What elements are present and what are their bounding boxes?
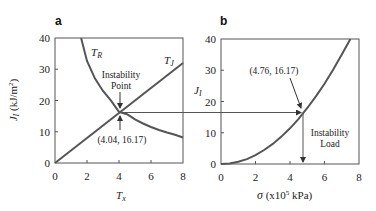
svg-text:30: 30 <box>39 63 51 75</box>
svg-text:4: 4 <box>287 171 293 183</box>
annotation-instability-point-2: Point <box>111 81 131 91</box>
ticks-a <box>55 69 151 163</box>
annotation-instability-load-1: Instability <box>311 128 350 138</box>
svg-text:20: 20 <box>39 95 51 107</box>
svg-text:40: 40 <box>205 33 217 45</box>
svg-text:6: 6 <box>322 171 328 183</box>
annotation-point-a: (4.04, 16.17) <box>97 135 146 146</box>
svg-text:6: 6 <box>148 170 154 182</box>
y-tick-labels-a: 0 10 20 30 40 <box>39 32 51 169</box>
x-tick-labels-a: 0 2 4 6 8 <box>52 170 186 182</box>
figure: a b 0 10 20 30 40 0 2 4 6 8 JI <box>0 0 376 211</box>
svg-text:0: 0 <box>211 158 217 170</box>
annotation-instability-load-2: Load <box>320 139 340 149</box>
svg-text:2: 2 <box>84 170 90 182</box>
y-axis-label-a: JI (kJ/m2) <box>7 78 21 121</box>
chart-a: 0 10 20 30 40 0 2 4 6 8 JI (kJ/m2) Tx TR… <box>7 32 186 203</box>
svg-text:2: 2 <box>253 171 259 183</box>
y-tick-labels-b: 0 10 20 30 40 <box>205 33 217 170</box>
curve-label-tr: TR <box>91 46 102 60</box>
svg-text:20: 20 <box>205 96 217 108</box>
svg-text:10: 10 <box>39 126 51 138</box>
ticks-b <box>221 70 325 164</box>
svg-text:8: 8 <box>180 170 186 182</box>
y-axis-label-b: JI <box>194 84 202 98</box>
annotation-instability-point-1: Instability <box>102 70 141 80</box>
x-axis-label-b: σ (x105 kPa) <box>257 188 313 202</box>
svg-text:4: 4 <box>116 170 122 182</box>
curve-label-tj: TJ <box>164 54 174 68</box>
chart-b: 0 10 20 30 40 0 2 4 6 8 JI σ (x105 kPa) … <box>194 33 362 202</box>
svg-text:0: 0 <box>45 157 51 169</box>
x-axis-label-a: Tx <box>116 189 126 203</box>
arrow-diagonal-icon <box>290 78 301 108</box>
svg-text:10: 10 <box>205 127 217 139</box>
svg-text:0: 0 <box>218 171 224 183</box>
svg-text:40: 40 <box>39 32 51 44</box>
svg-text:30: 30 <box>205 64 217 76</box>
annotation-point-b: (4.76, 16.17) <box>249 66 298 77</box>
x-tick-labels-b: 0 2 4 6 8 <box>218 171 362 183</box>
svg-text:8: 8 <box>356 171 362 183</box>
panel-label-a: a <box>55 14 62 28</box>
svg-text:0: 0 <box>52 170 58 182</box>
panel-label-b: b <box>220 14 227 28</box>
